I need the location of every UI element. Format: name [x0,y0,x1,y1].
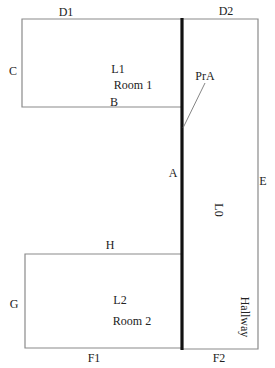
room2-name-label: Room 2 [113,314,151,328]
edge-label-d2: D2 [219,4,234,18]
room2-id-label: L2 [113,293,126,307]
edge-label-a: A [169,166,178,180]
edge-label-b: B [110,95,118,109]
room1-wall [22,19,182,107]
edge-label-g: G [10,297,19,311]
edge-label-f1: F1 [88,351,101,365]
floor-plan-diagram: D1 D2 C B A E H G F1 F2 PrA L1 Room 1 L2… [0,0,275,368]
edge-label-e: E [259,174,266,188]
room1-name-label: Room 1 [114,78,152,92]
edge-label-f2: F2 [213,351,226,365]
room1-id-label: L1 [111,62,124,76]
room2-wall [25,254,182,348]
hallway-name-label: Hallway [238,297,252,338]
hallway-id-label: L0 [212,203,226,216]
edge-label-h: H [106,238,115,252]
edge-label-c: C [9,64,17,78]
annotation-pra: PrA [195,69,215,83]
pra-leader-line [183,83,205,128]
edge-label-d1: D1 [59,5,74,19]
